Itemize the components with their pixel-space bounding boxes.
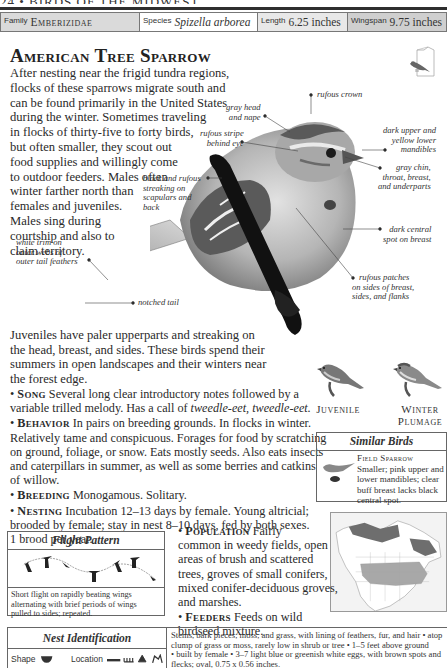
family-cell: Family Emberizidae	[1, 13, 140, 31]
song-call: tweedle-eet, tweedle-eet.	[191, 401, 311, 415]
winter-caption-line: Plumage	[393, 415, 447, 427]
similar-birds-box: Similar Birds Field Sparrow Smaller; pin…	[316, 432, 447, 502]
callout-rufous-crown: rufous crown	[317, 90, 362, 100]
behavior-text: on ground, foliage, or snow. Eats mostly…	[10, 445, 310, 459]
callout-gray-head: gray head and nape	[226, 103, 261, 122]
population-text: mixed conifer-deciduous groves,	[178, 581, 338, 595]
population-heading: Population	[185, 524, 249, 538]
nesting-heading: Nesting	[17, 504, 62, 518]
similar-birds-heading: Similar Birds	[317, 433, 446, 451]
info-bar: Family Emberizidae Species Spizella arbo…	[0, 12, 447, 32]
juvenile-line: the head, breast, and sides. These birds…	[10, 343, 266, 358]
juvenile-line: the forest edge.	[10, 372, 266, 387]
callout-mandibles: dark upper and yellow lower mandibles	[383, 126, 436, 155]
callout-notched-tail: notched tail	[138, 298, 179, 308]
flight-caption-line: alternating with brief periods of wings	[11, 600, 161, 610]
population-text: Fairly	[253, 524, 282, 538]
species-cell: Species Spizella arborea	[140, 13, 258, 31]
sparrow-illustration	[150, 110, 380, 340]
ground-icon	[107, 659, 120, 661]
behavior-text: In pairs on breeding grounds. In flocks …	[73, 416, 311, 430]
feeders-heading: Feeders	[185, 610, 231, 624]
similar-bird-text: Field Sparrow Smaller; pink upper and lo…	[357, 453, 444, 506]
wingspan-cell: Wingspan 9.75 inches	[348, 13, 446, 31]
fact-breeding: • Breeding Monogamous. Solitary.	[10, 488, 310, 502]
flight-caption-line: pulled to sides; repeated.	[11, 609, 161, 619]
flight-pattern-box: Flight Pattern Short flight on rapidly b…	[7, 531, 165, 616]
callout-white-trim: white trim on outer webs of outer tail f…	[16, 238, 78, 267]
winter-plumage-bird-illustration	[392, 358, 446, 398]
breeding-text: Monogamous. Solitary.	[73, 488, 187, 502]
flight-caption-line: Short flight on rapidly beating wings	[11, 590, 161, 600]
nest-identification-box: Nest Identification Shape Location Stems…	[7, 627, 447, 668]
location-label: Location	[71, 654, 103, 664]
callout-dark-spot: dark central spot on breast	[383, 225, 431, 244]
length-cell: Length 6.25 inches	[258, 13, 348, 31]
cup-nest-icon	[40, 654, 53, 664]
behavior-text: and caterpillars in summer, as well as s…	[10, 459, 310, 473]
similar-bird-entry: Field Sparrow Smaller; pink upper and lo…	[317, 451, 446, 502]
behavior-heading: Behavior	[17, 416, 69, 430]
callout-rufous-stripe: rufous stripe behind eye	[200, 129, 244, 148]
breeding-heading: Breeding	[17, 488, 70, 502]
callout-line: outer tail feathers	[16, 257, 78, 267]
population-feeders-section: • Population Fairly common in weedy fiel…	[178, 524, 338, 639]
winter-plumage-caption: Winter Plumage	[393, 403, 447, 427]
wingspan-value: 9.75 inches	[390, 16, 442, 28]
callout-line: sides, and flanks	[352, 292, 414, 302]
length-value: 6.25 inches	[288, 16, 340, 28]
similar-bird-name: Field Sparrow	[357, 453, 444, 464]
winter-caption-line: Winter	[393, 403, 447, 415]
song-heading: Song	[17, 387, 45, 401]
callout-rufous-patches: rufous patches on sides of breast, sides…	[352, 273, 414, 302]
length-label: Length	[261, 16, 285, 25]
nesting-text: Incubation 12–13 days by female. Young a…	[65, 504, 309, 518]
callout-line: notched tail	[138, 298, 179, 308]
family-label: Family	[4, 16, 28, 25]
population-text: areas of brush and scattered	[178, 552, 338, 566]
flight-pattern-diagram	[8, 550, 164, 588]
flight-pattern-caption: Short flight on rapidly beating wings al…	[8, 588, 164, 621]
callout-line: mandibles	[383, 145, 436, 155]
nest-desc-line: flecks; oval, 0.75 x 0.56 inches.	[171, 660, 443, 668]
population-text: and marshes.	[178, 595, 338, 609]
intro-line: can be found primarily in the United Sta…	[10, 96, 229, 111]
fact-behavior: • Behavior In pairs on breeding grounds.…	[10, 416, 310, 487]
similar-bird-desc: central spot.	[357, 495, 444, 506]
callout-black-rufous-streaking: black and rufous streaking on scapulars …	[143, 174, 201, 212]
family-value: Emberizidae	[31, 16, 93, 28]
callout-line: and underparts	[378, 182, 431, 192]
callout-line: rufous crown	[317, 90, 362, 100]
behavior-text: Relatively tame and conspicuous. Forages…	[10, 431, 310, 445]
fact-song: • Song Several long clear introductory n…	[10, 387, 310, 415]
callout-line: behind eye	[200, 139, 244, 149]
intro-line: After nesting near the frigid tundra reg…	[10, 66, 229, 81]
range-map	[330, 512, 447, 612]
grass-icon	[124, 658, 134, 662]
similar-bird-desc: buff breast lacks black	[357, 485, 444, 496]
habitat-bird-icon	[410, 46, 436, 80]
shape-label: Shape	[11, 654, 36, 664]
flight-path-icon	[8, 550, 164, 588]
nest-shape-location-row: Shape Location	[8, 649, 166, 668]
similar-bird-desc: Smaller; pink upper and	[357, 464, 444, 475]
species-title: American Tree Sparrow	[10, 45, 211, 67]
wingspan-label: Wingspan	[351, 16, 387, 25]
nest-id-heading: Nest Identification	[8, 628, 166, 649]
nest-id-description: Stems, bark pieces, moss, and grass, wit…	[167, 628, 447, 668]
song-text: variable trilled melody. Has a call of	[10, 401, 191, 415]
intro-line: flocks of these sparrows migrate south a…	[10, 81, 229, 96]
juvenile-paragraph: Juveniles have paler upperparts and stre…	[10, 328, 266, 386]
juvenile-caption: Juvenile	[308, 403, 368, 415]
running-head: 24 • BIRDS OF THE MIDWEST	[0, 0, 447, 4]
song-text: Several long clear introductory notes fo…	[49, 387, 299, 401]
feeders-text: Feeds on wild	[234, 610, 302, 624]
callout-line: spot on breast	[383, 235, 431, 245]
callout-line: and nape	[226, 113, 261, 123]
callout-gray-chin: gray chin, throat, breast, and underpart…	[378, 163, 431, 192]
nest-id-left: Nest Identification Shape Location	[8, 628, 167, 668]
juvenile-bird-illustration	[316, 358, 366, 398]
flight-pattern-heading: Flight Pattern	[8, 532, 164, 550]
species-label: Species	[143, 16, 171, 25]
top-rule	[0, 7, 447, 10]
